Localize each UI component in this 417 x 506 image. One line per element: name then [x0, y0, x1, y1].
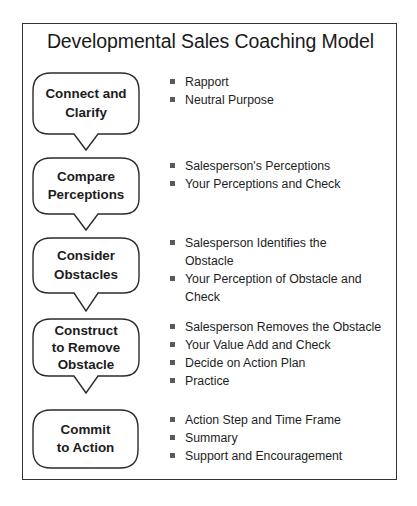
bullet-text: Summary — [185, 431, 238, 445]
bullet-item: Neutral Purpose — [168, 91, 274, 109]
bullet-text: Your Value Add and Check — [185, 338, 331, 352]
square-bullet-icon — [170, 163, 175, 168]
step-3-bullets: Salesperson Identifies the Obstacle Your… — [168, 234, 378, 306]
bullet-item: Rapport — [168, 73, 274, 91]
bullet-text: Your Perception of Obstacle and Check — [185, 272, 362, 304]
square-bullet-icon — [170, 181, 175, 186]
bullet-text: Neutral Purpose — [185, 93, 274, 107]
bullet-item: Salesperson Identifies the Obstacle — [168, 234, 378, 270]
bullet-item: Practice — [168, 372, 381, 390]
square-bullet-icon — [170, 417, 175, 422]
square-bullet-icon — [170, 276, 175, 281]
square-bullet-icon — [170, 324, 175, 329]
bullet-item: Summary — [168, 429, 342, 447]
square-bullet-icon — [170, 453, 175, 458]
step-5-label-line: to Action — [33, 439, 138, 458]
step-1-label: Connect and Clarify — [33, 73, 139, 134]
step-1-label-line: Clarify — [33, 104, 139, 123]
step-4-label: Construct to Remove Obstacle — [33, 319, 139, 376]
step-2-label-line: Compare — [33, 168, 139, 187]
bullet-text: Rapport — [185, 75, 229, 89]
step-5-label: Commit to Action — [33, 410, 138, 468]
step-2-bullets: Salesperson's Perceptions Your Perceptio… — [168, 157, 340, 193]
step-3-label-line: Obstacles — [33, 266, 139, 285]
bullet-text: Support and Encouragement — [185, 449, 342, 463]
step-1-label-line: Connect and — [33, 85, 139, 104]
bullet-item: Support and Encouragement — [168, 447, 342, 465]
square-bullet-icon — [170, 97, 175, 102]
bullet-text: Decide on Action Plan — [185, 356, 305, 370]
square-bullet-icon — [170, 360, 175, 365]
square-bullet-icon — [170, 378, 175, 383]
step-4-label-line: Construct — [33, 322, 139, 339]
bullet-item: Action Step and Time Frame — [168, 411, 342, 429]
bullet-text: Salesperson's Perceptions — [185, 159, 330, 173]
bullet-text: Action Step and Time Frame — [185, 413, 341, 427]
square-bullet-icon — [170, 435, 175, 440]
step-4-label-line: Obstacle — [33, 356, 139, 373]
step-3-label-line: Consider — [33, 247, 139, 266]
bullet-item: Salesperson Removes the Obstacle — [168, 318, 381, 336]
bullet-item: Your Value Add and Check — [168, 336, 381, 354]
bullet-text: Your Perceptions and Check — [185, 177, 340, 191]
square-bullet-icon — [170, 240, 175, 245]
step-1-bullets: Rapport Neutral Purpose — [168, 73, 274, 109]
bullet-text: Salesperson Removes the Obstacle — [185, 320, 381, 334]
square-bullet-icon — [170, 342, 175, 347]
step-5-label-line: Commit — [33, 421, 138, 440]
bullet-item: Your Perception of Obstacle and Check — [168, 270, 378, 306]
bullet-text: Practice — [185, 374, 229, 388]
step-5-bullets: Action Step and Time Frame Summary Suppo… — [168, 411, 342, 465]
step-3-label: Consider Obstacles — [33, 238, 139, 293]
step-2-label: Compare Perceptions — [33, 158, 139, 214]
square-bullet-icon — [170, 79, 175, 84]
bullet-text: Salesperson Identifies the Obstacle — [185, 236, 327, 268]
step-4-bullets: Salesperson Removes the Obstacle Your Va… — [168, 318, 381, 390]
bullet-item: Decide on Action Plan — [168, 354, 381, 372]
step-2-label-line: Perceptions — [33, 186, 139, 205]
bullet-item: Your Perceptions and Check — [168, 175, 340, 193]
step-4-label-line: to Remove — [33, 339, 139, 356]
bullet-item: Salesperson's Perceptions — [168, 157, 340, 175]
